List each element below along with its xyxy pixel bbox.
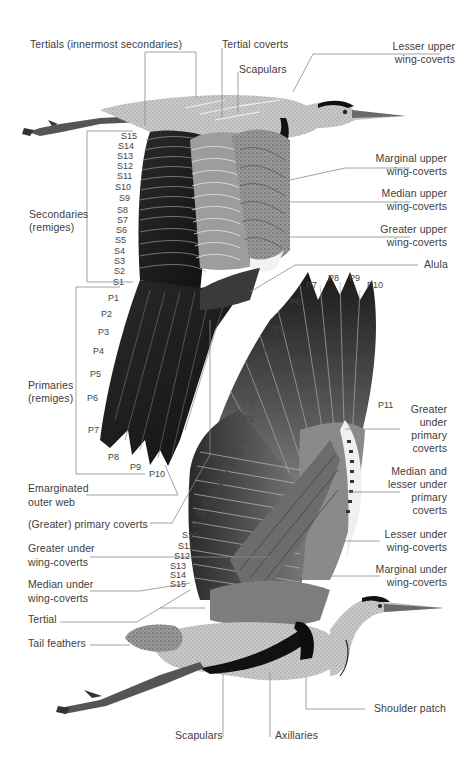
label-greater-primary-coverts: (Greater) primary coverts [28, 518, 148, 531]
label-line-2: wing-coverts [382, 200, 447, 213]
feather-number: S7 [202, 498, 213, 508]
feather-number: S8 [117, 205, 128, 215]
feather-number: P11 [378, 400, 393, 410]
label-line-1: Marginal under [376, 563, 447, 576]
feather-number: P2 [243, 396, 254, 406]
feather-number: P9 [130, 462, 141, 472]
feather-number: P3 [98, 327, 109, 337]
label-line-3: primary [388, 491, 447, 504]
label-line-2: wing-coverts [28, 556, 95, 570]
label-marginal-upper-wing-coverts: Marginal upper wing-coverts [376, 152, 447, 178]
feather-number: P5 [274, 324, 285, 334]
feather-number: P6 [87, 393, 98, 403]
label-line-1: Greater upper [380, 223, 447, 236]
feather-number: S2 [232, 447, 243, 457]
feather-number: P1 [243, 414, 254, 424]
feather-number: S9 [119, 193, 130, 203]
feather-number: S5 [213, 477, 224, 487]
feather-number: S10 [115, 182, 131, 192]
label-line-2: outer web [28, 496, 89, 510]
label-line-2: wing-coverts [380, 236, 447, 249]
label-line-2: wing-coverts [376, 576, 447, 589]
label-line-1: Lesser under [385, 528, 448, 541]
label-median-upper-wing-coverts: Median upper wing-coverts [382, 187, 447, 213]
feather-number: S11 [117, 171, 132, 181]
feather-number: S3 [114, 256, 125, 266]
lower-heron-figure [56, 272, 444, 714]
label-line-1: Median under [28, 578, 93, 592]
feather-number: S3 [226, 457, 237, 467]
label-line-1: Emarginated [28, 482, 89, 496]
label-line-2: wing-coverts [393, 53, 456, 66]
label-axillaries: Axillaries [275, 729, 318, 742]
feather-number: S6 [116, 225, 127, 235]
label-line-1: Greater [411, 403, 447, 416]
feather-number: P8 [328, 273, 339, 283]
label-line-1: Median and [388, 465, 447, 478]
label-line-1: Greater under [28, 542, 95, 556]
label-tertial-coverts: Tertial coverts [222, 38, 288, 51]
feather-number: P8 [108, 452, 119, 462]
feather-number: S2 [114, 266, 125, 276]
feather-number: S6 [208, 487, 219, 497]
feather-number: P10 [149, 469, 165, 479]
label-line-4: coverts [411, 442, 447, 455]
label-median-lesser-under-primary-coverts: Median and lesser under primary coverts [388, 465, 447, 517]
label-line-1: Marginal upper [376, 152, 447, 165]
feather-number: P3 [251, 370, 262, 380]
feather-number: S9 [191, 519, 202, 529]
label-line-2: (remiges) [29, 221, 88, 234]
label-line-2: lesser under [388, 478, 447, 491]
label-line-3: primary [411, 429, 447, 442]
label-secondaries: Secondaries (remiges) [29, 208, 88, 234]
label-line-4: coverts [388, 504, 447, 517]
label-lesser-upper-wing-coverts: Lesser upper wing-coverts [393, 40, 456, 66]
label-median-under-wing-coverts: Median under wing-coverts [28, 578, 93, 605]
feather-number: S8 [195, 508, 206, 518]
feather-number: S7 [117, 215, 128, 225]
label-tertials: Tertials (innermost secondaries) [30, 38, 182, 51]
feather-number: S12 [117, 161, 133, 171]
label-line-1: Primaries [28, 379, 73, 392]
label-scapulars-lower: Scapulars [175, 729, 223, 742]
feather-number: S1 [236, 436, 247, 446]
label-line-2: wing-coverts [385, 541, 448, 554]
feather-number: S4 [218, 467, 229, 477]
feather-number: P2 [101, 309, 112, 319]
feather-number: S15 [121, 131, 137, 141]
label-line-2: wing-coverts [376, 165, 447, 178]
feather-number: S13 [117, 151, 133, 161]
feather-number: P7 [88, 425, 99, 435]
label-line-1: Median upper [382, 187, 447, 200]
feather-number: S5 [115, 235, 126, 245]
label-line-1: Secondaries [29, 208, 88, 221]
label-marginal-under-wing-coverts: Marginal under wing-coverts [376, 563, 447, 589]
label-lesser-under-wing-coverts: Lesser under wing-coverts [385, 528, 448, 554]
feather-number: P4 [263, 346, 274, 356]
label-line-1: Lesser upper [393, 40, 456, 53]
label-emarginated-outer-web: Emarginated outer web [28, 482, 89, 509]
feather-number: S1 [113, 277, 124, 287]
label-tertial: Tertial [28, 613, 57, 626]
label-greater-under-wing-coverts: Greater under wing-coverts [28, 542, 95, 569]
feather-number: S12 [174, 551, 190, 561]
feather-number: S11 [178, 541, 193, 551]
feather-number: S10 [182, 530, 198, 540]
feather-number: P4 [93, 346, 104, 356]
label-shoulder-patch: Shoulder patch [374, 702, 446, 715]
label-greater-upper-wing-coverts: Greater upper wing-coverts [380, 223, 447, 249]
feather-number: P10 [367, 280, 383, 290]
feather-number: P7 [306, 280, 317, 290]
label-greater-under-primary-coverts: Greater under primary coverts [411, 403, 447, 455]
label-scapulars-upper: Scapulars [239, 63, 287, 76]
feather-number: P5 [90, 369, 101, 379]
label-primaries: Primaries (remiges) [28, 379, 73, 405]
feather-number: P9 [349, 273, 360, 283]
feather-number: S14 [118, 141, 134, 151]
feather-number: P6 [290, 297, 301, 307]
label-tail-feathers: Tail feathers [28, 637, 86, 650]
label-line-2: under [411, 416, 447, 429]
label-alula: Alula [424, 258, 448, 271]
feather-number: P1 [108, 293, 119, 303]
feather-number: S15 [170, 579, 186, 589]
